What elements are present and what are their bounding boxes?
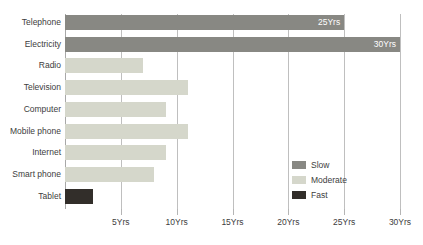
- axis-tick-mark: [400, 209, 401, 215]
- axis-tick-mark: [344, 209, 345, 215]
- legend-swatch-icon: [292, 176, 306, 184]
- bar-row: 30Yrs: [65, 37, 400, 52]
- legend-label: Moderate: [311, 175, 347, 185]
- value-axis: 5Yrs10Yrs15Yrs20Yrs25Yrs30Yrs: [65, 209, 400, 235]
- axis-tick-label: 15Yrs: [221, 217, 243, 227]
- axis-tick-label: 30Yrs: [389, 217, 411, 227]
- legend: SlowModerateFast: [292, 158, 358, 203]
- bar-value-label: 30Yrs: [374, 37, 396, 52]
- bar[interactable]: 30Yrs: [65, 37, 400, 52]
- bar[interactable]: [65, 167, 154, 182]
- category-axis-labels: TelephoneElectricityRadioTelevisionCompu…: [0, 14, 61, 209]
- bar-row: [65, 124, 400, 139]
- axis-tick-label: 20Yrs: [277, 217, 299, 227]
- legend-label: Slow: [311, 160, 329, 170]
- axis-tick-mark: [177, 209, 178, 215]
- bar-row: [65, 80, 400, 95]
- bar-value-label: 25Yrs: [318, 15, 340, 30]
- category-label: Tablet: [0, 189, 61, 204]
- bar[interactable]: [65, 80, 188, 95]
- bar[interactable]: [65, 58, 143, 73]
- legend-swatch-icon: [292, 191, 306, 199]
- axis-tick-label: 5Yrs: [112, 217, 129, 227]
- bar-row: [65, 58, 400, 73]
- axis-tick-label: 10Yrs: [166, 217, 188, 227]
- legend-item[interactable]: Slow: [292, 158, 358, 172]
- category-label: Radio: [0, 58, 61, 73]
- legend-item[interactable]: Moderate: [292, 173, 358, 187]
- legend-label: Fast: [311, 190, 328, 200]
- legend-swatch-icon: [292, 161, 306, 169]
- bar-row: 25Yrs: [65, 15, 400, 30]
- axis-tick-mark: [233, 209, 234, 215]
- category-label: Mobile phone: [0, 124, 61, 139]
- category-label: Television: [0, 80, 61, 95]
- bar[interactable]: [65, 102, 166, 117]
- category-label: Electricity: [0, 37, 61, 52]
- category-label: Computer: [0, 102, 61, 117]
- bar-row: [65, 102, 400, 117]
- bar[interactable]: [65, 189, 93, 204]
- gridline: [400, 14, 401, 209]
- bar[interactable]: 25Yrs: [65, 15, 344, 30]
- axis-tick-mark: [121, 209, 122, 215]
- bar[interactable]: [65, 124, 188, 139]
- bar-chart: TelephoneElectricityRadioTelevisionCompu…: [0, 0, 423, 245]
- bar[interactable]: [65, 145, 166, 160]
- category-label: Telephone: [0, 15, 61, 30]
- category-label: Smart phone: [0, 167, 61, 182]
- legend-item[interactable]: Fast: [292, 188, 358, 202]
- category-label: Internet: [0, 145, 61, 160]
- axis-tick-mark: [288, 209, 289, 215]
- axis-tick-label: 25Yrs: [333, 217, 355, 227]
